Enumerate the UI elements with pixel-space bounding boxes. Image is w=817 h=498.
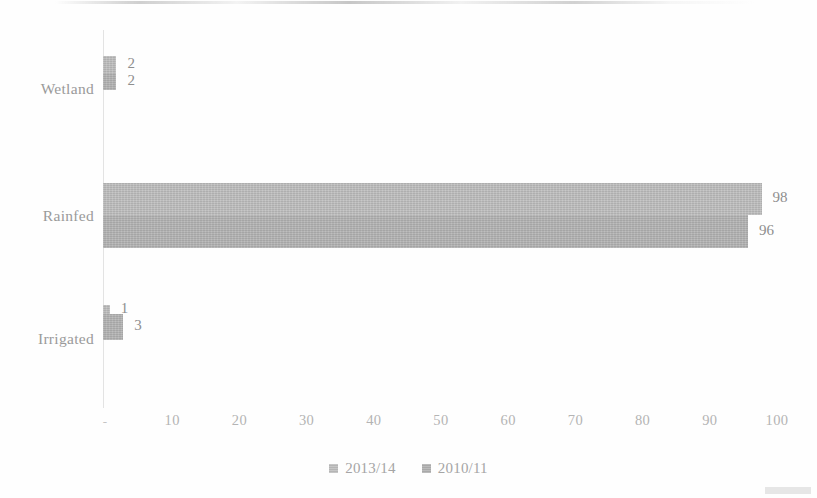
bar-irrigated-2013	[103, 305, 110, 314]
value-label-wetland-2013: 2	[127, 55, 135, 72]
bar-chart: Wetland Rainfed Irrigated 2 2 98 96 1 3 …	[0, 0, 817, 498]
legend-swatch-icon-2010	[422, 464, 431, 473]
value-label-rainfed-2010: 96	[759, 222, 774, 239]
bar-irrigated-2010	[103, 314, 123, 340]
x-axis-tick-zero: -	[103, 414, 108, 430]
x-axis-tick-40: 40	[366, 412, 381, 429]
scan-artifact-corner	[765, 487, 811, 494]
category-label-wetland: Wetland	[41, 80, 94, 98]
bar-wetland-2010	[103, 73, 116, 90]
category-label-rainfed: Rainfed	[43, 207, 94, 225]
x-axis-tick-50: 50	[433, 412, 448, 429]
x-axis-tick-70: 70	[568, 412, 583, 429]
value-label-wetland-2010: 2	[127, 72, 135, 89]
bar-rainfed-2013	[103, 183, 762, 215]
legend-label-2013: 2013/14	[345, 460, 396, 477]
bar-wetland-2013	[103, 56, 116, 73]
bar-rainfed-2010	[103, 215, 748, 248]
legend-label-2010: 2010/11	[438, 460, 488, 477]
legend-item-2013[interactable]: 2013/14	[329, 460, 396, 477]
category-label-irrigated: Irrigated	[38, 330, 94, 348]
x-axis-tick-10: 10	[165, 412, 180, 429]
legend-item-2010[interactable]: 2010/11	[422, 460, 488, 477]
legend-swatch-icon-2013	[329, 464, 338, 473]
x-axis-tick-60: 60	[501, 412, 516, 429]
x-axis-tick-30: 30	[299, 412, 314, 429]
value-label-irrigated-2010: 3	[134, 317, 142, 334]
x-axis-tick-100: 100	[766, 412, 789, 429]
x-axis-tick-80: 80	[635, 412, 650, 429]
value-label-rainfed-2013: 98	[773, 189, 788, 206]
chart-legend: 2013/14 2010/11	[0, 460, 817, 477]
x-axis-tick-90: 90	[702, 412, 717, 429]
scan-artifact-top	[55, 1, 755, 4]
value-label-irrigated-2013: 1	[121, 300, 129, 317]
x-axis-tick-20: 20	[232, 412, 247, 429]
